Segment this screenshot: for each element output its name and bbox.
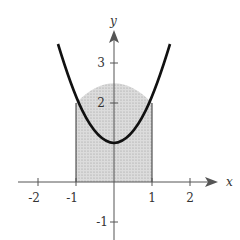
y-tick-label: -1 [96,215,108,229]
x-tick-label: -2 [28,191,40,205]
y-axis-label: y [109,14,117,28]
x-tick-label: 2 [186,191,194,205]
y-tick-label: 2 [97,96,105,110]
x-axis-label: x [226,175,233,189]
graph: -2 -1 1 2 3 2 -1 x y [0,0,240,240]
x-tick-label: 1 [148,191,156,205]
x-tick-label: -1 [66,191,78,205]
y-tick-label: 3 [97,56,105,70]
